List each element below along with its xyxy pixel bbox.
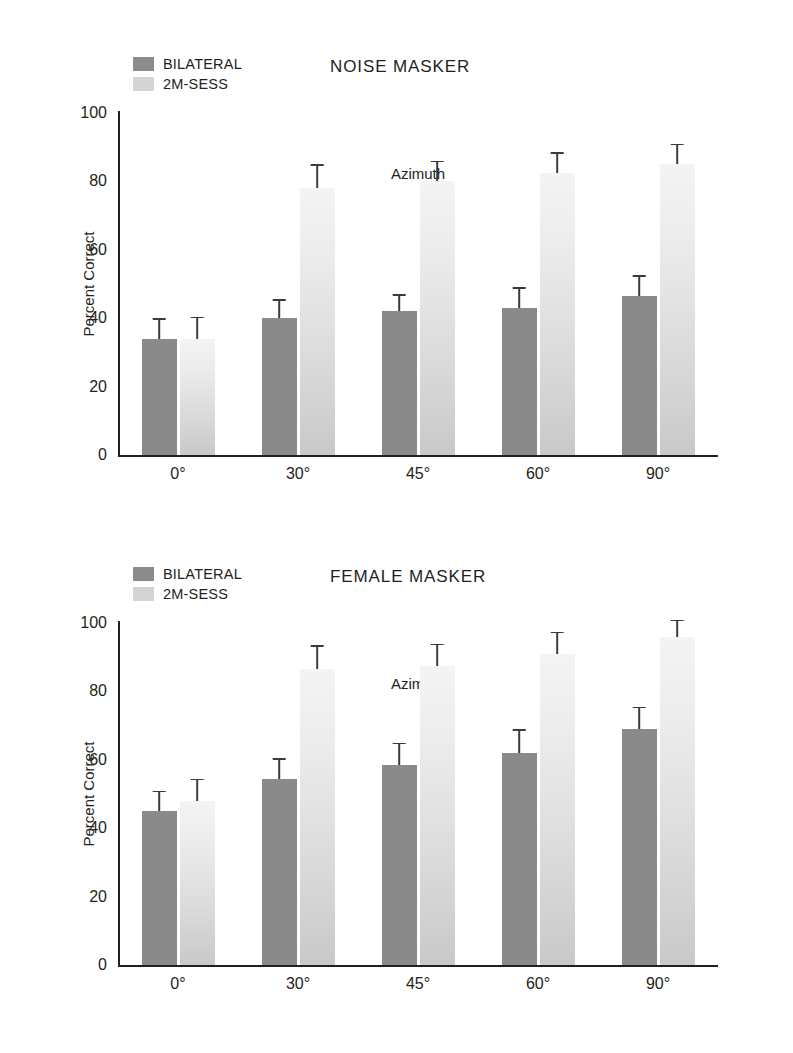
error-bar bbox=[316, 645, 318, 669]
error-bar bbox=[278, 758, 280, 779]
bar[interactable] bbox=[540, 173, 575, 455]
bar-group: 0° bbox=[118, 113, 238, 455]
bar-column[interactable] bbox=[420, 623, 455, 965]
error-bar-cap bbox=[273, 299, 286, 301]
chart-panel-female-masker: BILATERAL 2M-SESS FEMALE MASKER Percent … bbox=[0, 540, 793, 1030]
bar-column[interactable] bbox=[660, 113, 695, 455]
error-bar bbox=[316, 164, 318, 188]
error-bar-cap bbox=[431, 161, 444, 163]
error-bar bbox=[398, 294, 400, 311]
panel-title-noise-masker: NOISE MASKER bbox=[330, 57, 470, 77]
bar-group-bars bbox=[478, 623, 598, 965]
bar-column[interactable] bbox=[382, 623, 417, 965]
bar[interactable] bbox=[180, 339, 215, 455]
bar-column[interactable] bbox=[180, 113, 215, 455]
bar[interactable] bbox=[540, 654, 575, 965]
error-bar-cap bbox=[671, 620, 684, 622]
error-bar bbox=[518, 287, 520, 308]
error-bar-cap bbox=[311, 645, 324, 647]
bar[interactable] bbox=[622, 296, 657, 455]
y-tick-label: 100 bbox=[80, 104, 107, 122]
bar[interactable] bbox=[660, 164, 695, 455]
bar-column[interactable] bbox=[420, 113, 455, 455]
y-tick-label: 80 bbox=[89, 172, 107, 190]
legend-item-bilateral: BILATERAL bbox=[133, 565, 242, 582]
x-tick-label: 0° bbox=[118, 975, 238, 993]
bar-group: 45° bbox=[358, 113, 478, 455]
y-tick-label: 20 bbox=[89, 378, 107, 396]
x-tick-label: 45° bbox=[358, 975, 478, 993]
chart-legend: BILATERAL 2M-SESS bbox=[133, 55, 242, 92]
bar-column[interactable] bbox=[262, 113, 297, 455]
y-tick-label: 40 bbox=[89, 309, 107, 327]
bar[interactable] bbox=[420, 181, 455, 455]
bar-group: 45° bbox=[358, 623, 478, 965]
bar-group-bars bbox=[238, 623, 358, 965]
bar[interactable] bbox=[300, 669, 335, 965]
error-bar-cap bbox=[191, 779, 204, 781]
bar[interactable] bbox=[420, 666, 455, 965]
bar[interactable] bbox=[142, 339, 177, 455]
legend-label-bilateral: BILATERAL bbox=[163, 567, 242, 581]
y-tick-label: 80 bbox=[89, 682, 107, 700]
chart-panel-noise-masker: BILATERAL 2M-SESS NOISE MASKER Percent C… bbox=[0, 30, 793, 520]
bar-column[interactable] bbox=[622, 113, 657, 455]
bar-column[interactable] bbox=[540, 623, 575, 965]
x-tick-label: 30° bbox=[238, 975, 358, 993]
error-bar-cap bbox=[671, 144, 684, 146]
bar-column[interactable] bbox=[300, 623, 335, 965]
error-bar bbox=[278, 299, 280, 318]
bar-group-bars bbox=[118, 113, 238, 455]
bar[interactable] bbox=[142, 811, 177, 965]
bar[interactable] bbox=[382, 765, 417, 965]
bar[interactable] bbox=[502, 308, 537, 455]
error-bar bbox=[196, 779, 198, 801]
bar-group: 30° bbox=[238, 113, 358, 455]
bar-group: 90° bbox=[598, 113, 718, 455]
bar-column[interactable] bbox=[502, 623, 537, 965]
chart-legend: BILATERAL 2M-SESS bbox=[133, 565, 242, 602]
x-tick-label: 0° bbox=[118, 465, 238, 483]
x-tick-label: 60° bbox=[478, 465, 598, 483]
bar-group: 60° bbox=[478, 623, 598, 965]
bar-group: 30° bbox=[238, 623, 358, 965]
bar-column[interactable] bbox=[142, 113, 177, 455]
error-bar-cap bbox=[633, 275, 646, 277]
legend-item-bilateral: BILATERAL bbox=[133, 55, 242, 72]
x-axis-line bbox=[118, 965, 718, 967]
error-bar bbox=[196, 317, 198, 339]
y-tick-label: 0 bbox=[98, 446, 107, 464]
bar-group-bars bbox=[598, 113, 718, 455]
bar-column[interactable] bbox=[382, 113, 417, 455]
bar[interactable] bbox=[300, 188, 335, 455]
bar-column[interactable] bbox=[142, 623, 177, 965]
bar[interactable] bbox=[622, 729, 657, 965]
error-bar bbox=[436, 161, 438, 182]
legend-swatch-2m-sess-icon bbox=[133, 77, 154, 91]
bar[interactable] bbox=[382, 311, 417, 455]
plot-area-noise-masker: Percent Correct Azimuth 020406080100 0°3… bbox=[118, 113, 718, 455]
bar-group-bars bbox=[238, 113, 358, 455]
bar-column[interactable] bbox=[540, 113, 575, 455]
bar-group-bars bbox=[358, 113, 478, 455]
x-tick-label: 90° bbox=[598, 975, 718, 993]
bar-column[interactable] bbox=[180, 623, 215, 965]
x-tick-label: 30° bbox=[238, 465, 358, 483]
error-bar-cap bbox=[551, 152, 564, 154]
y-tick-label: 40 bbox=[89, 819, 107, 837]
bar[interactable] bbox=[180, 801, 215, 965]
bar[interactable] bbox=[262, 318, 297, 455]
bar[interactable] bbox=[660, 637, 695, 965]
error-bar bbox=[158, 791, 160, 812]
y-tick-label: 0 bbox=[98, 956, 107, 974]
bar-column[interactable] bbox=[660, 623, 695, 965]
bar-column[interactable] bbox=[300, 113, 335, 455]
bar[interactable] bbox=[262, 779, 297, 965]
bar-column[interactable] bbox=[502, 113, 537, 455]
bar-column[interactable] bbox=[262, 623, 297, 965]
bar[interactable] bbox=[502, 753, 537, 965]
error-bar bbox=[556, 632, 558, 654]
error-bar bbox=[518, 729, 520, 753]
bar-column[interactable] bbox=[622, 623, 657, 965]
error-bar-cap bbox=[513, 287, 526, 289]
